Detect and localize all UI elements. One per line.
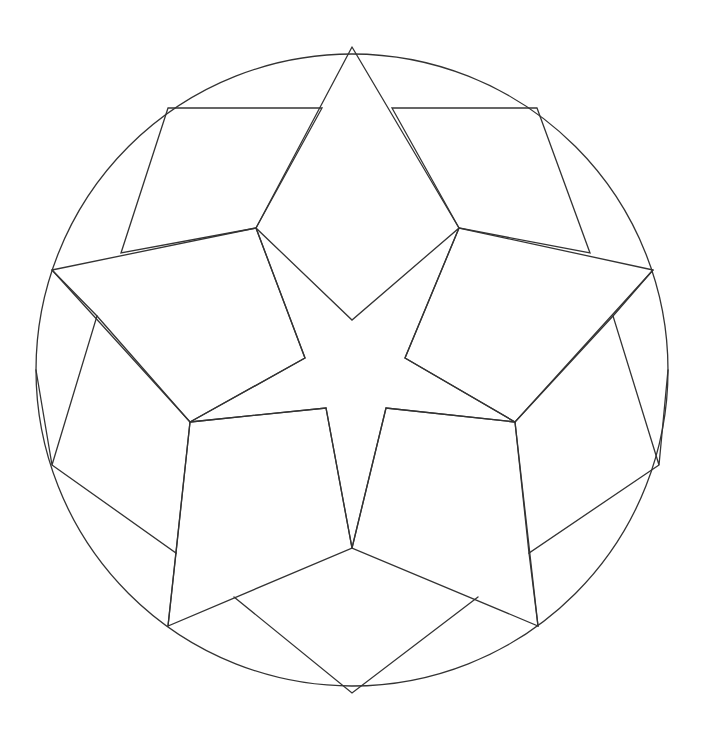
left-side-quad bbox=[36, 270, 97, 465]
upper-left-quad bbox=[121, 108, 322, 253]
star-inner-right bbox=[405, 228, 515, 422]
bottom-left-quad bbox=[168, 408, 352, 626]
outer-circle bbox=[36, 54, 668, 686]
right-lower-quad bbox=[515, 316, 659, 553]
bottom-right-quad bbox=[352, 408, 538, 626]
bottom-rhombus bbox=[234, 597, 478, 693]
bottom-left-edge bbox=[168, 553, 176, 626]
star-notch-lower bbox=[190, 408, 515, 548]
star-inner-left bbox=[190, 228, 305, 422]
bottom-right-edge bbox=[529, 553, 538, 626]
upper-right-quad bbox=[392, 108, 590, 253]
mandala-figure bbox=[0, 0, 705, 740]
top-rhombus bbox=[256, 47, 459, 320]
